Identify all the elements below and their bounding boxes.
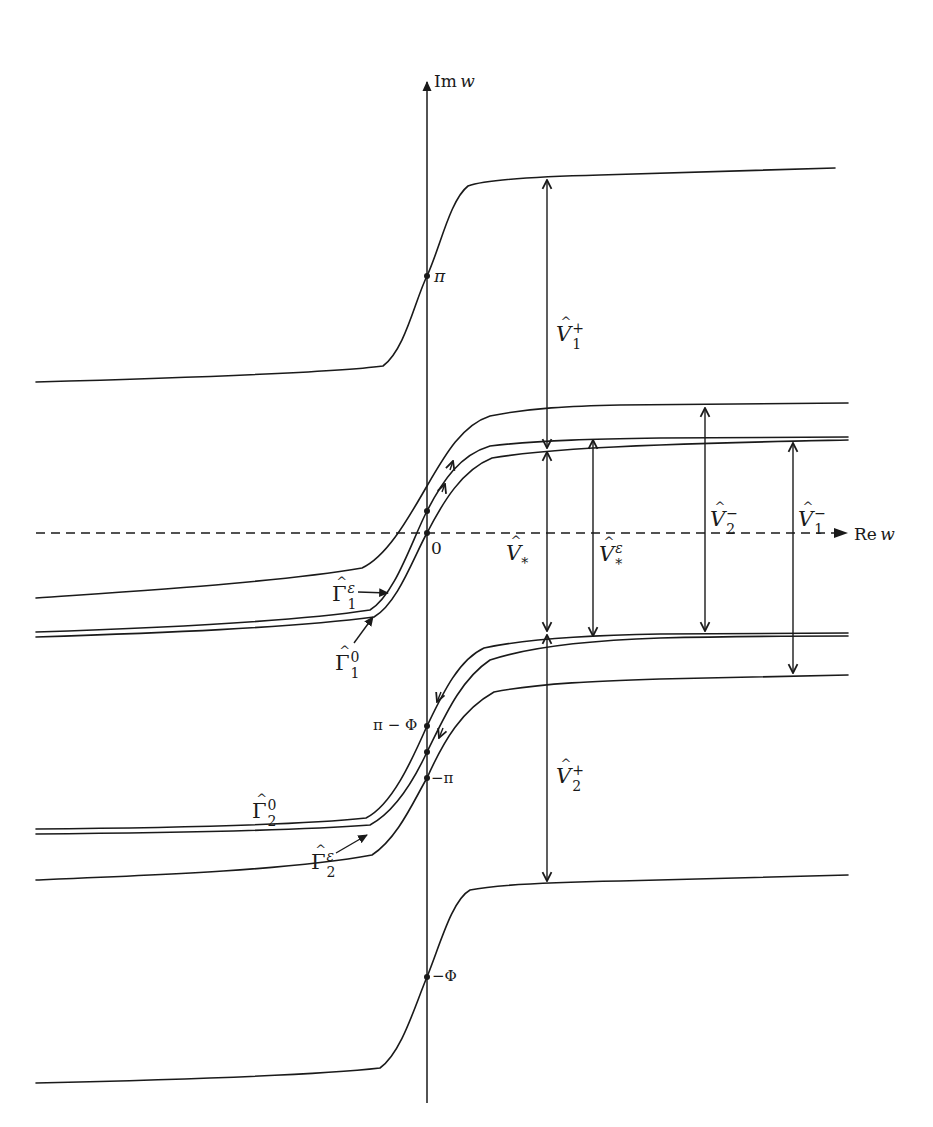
complex-plane-figure: Im w Re w π 0 π − Φ −π −Φ ^Γε1 ^Γ01 ^Γ02…	[0, 0, 933, 1127]
pi-label: π	[434, 268, 445, 285]
upper-outer-curve	[36, 403, 848, 598]
re-axis-label: Re w	[854, 526, 895, 543]
v-star-label: ^V*	[506, 543, 528, 564]
gamma1-epsilon-direction-icon	[450, 461, 453, 470]
gamma1-epsilon-label: ^Γε1	[332, 580, 357, 612]
point-origin	[424, 530, 430, 536]
gamma1-zero-label: ^Γ01	[335, 649, 360, 681]
gamma2-zero-label: ^Γ02	[252, 797, 277, 829]
gamma1-zero-curve	[36, 440, 848, 637]
origin-label: 0	[431, 540, 442, 557]
gamma2-epsilon-direction-icon	[439, 728, 443, 738]
minus-pi-label: −π	[431, 771, 453, 786]
figure-canvas	[0, 0, 933, 1127]
point-minus-pi	[424, 775, 430, 781]
gamma2-epsilon-label: ^Γε2	[311, 848, 336, 880]
gamma2-epsilon-curve	[36, 636, 848, 834]
gamma2-epsilon-pointer-icon	[336, 835, 367, 853]
real-axis-arrowhead-icon	[834, 528, 848, 538]
v-star-epsilon-label: ^Vε*	[599, 540, 623, 572]
point-pi	[424, 273, 430, 279]
minus-phi-label: −Φ	[432, 969, 457, 984]
gamma1-zero-pointer-icon	[354, 617, 373, 643]
pi-minus-phi-label: π − Φ	[373, 718, 417, 733]
v2-minus-label: ^V−2	[710, 505, 738, 537]
gamma1-epsilon-pointer-icon	[358, 592, 388, 593]
v2-plus-label: ^V+2	[556, 762, 584, 794]
v1-minus-label: ^V−1	[798, 505, 826, 537]
im-axis-label: Im w	[434, 73, 475, 90]
point-pi-minus-phi	[424, 723, 430, 729]
point-gamma1-epsilon-crossing	[424, 508, 430, 514]
v1-plus-label: ^V+1	[556, 320, 584, 352]
point-gamma2-epsilon-crossing	[424, 749, 430, 755]
point-minus-phi	[424, 974, 430, 980]
